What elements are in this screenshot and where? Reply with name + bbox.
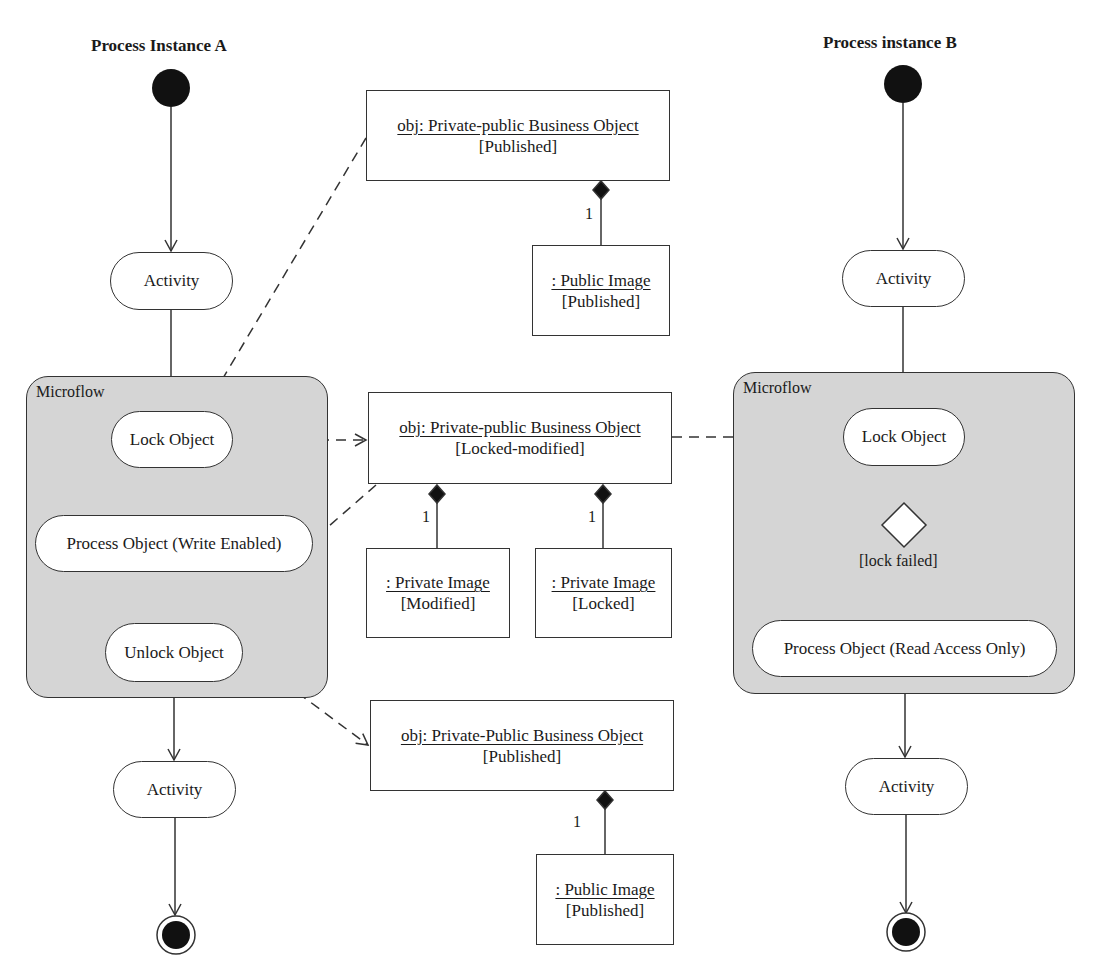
decision-node-b	[880, 501, 930, 551]
multiplicity-mid-right: 1	[588, 508, 596, 526]
process-object-read-b-label: Process Object (Read Access Only)	[784, 639, 1026, 659]
activity-a-bottom[interactable]: Activity	[113, 761, 236, 818]
activity-b-bottom-label: Activity	[879, 777, 935, 797]
object-private-image-modified[interactable]: : Private Image [Modified]	[366, 548, 510, 638]
final-node-b	[887, 913, 925, 951]
activity-b-top-label: Activity	[876, 269, 932, 289]
unlock-object-a[interactable]: Unlock Object	[105, 623, 243, 682]
lock-object-b[interactable]: Lock Object	[843, 408, 965, 466]
multiplicity-bottom: 1	[573, 813, 581, 831]
object-bottom-part-state: [Published]	[566, 900, 644, 921]
multiplicity-mid-left: 1	[422, 508, 430, 526]
object-bottom-public-image[interactable]: : Public Image [Published]	[536, 854, 674, 945]
process-object-write-a[interactable]: Process Object (Write Enabled)	[35, 515, 313, 572]
object-middle-state: [Locked-modified]	[455, 438, 584, 459]
process-object-write-a-label: Process Object (Write Enabled)	[66, 534, 281, 554]
lock-object-b-label: Lock Object	[862, 427, 947, 447]
microflow-a-label: Microflow	[36, 383, 104, 401]
object-middle-name: obj: Private-public Business Object	[399, 417, 640, 438]
object-top-part-state: [Published]	[562, 291, 640, 312]
object-top-part-name: : Public Image	[551, 270, 650, 291]
object-top-state: [Published]	[479, 136, 557, 157]
activity-b-top[interactable]: Activity	[842, 250, 965, 307]
object-mid-part0-name: : Private Image	[386, 572, 490, 593]
multiplicity-top: 1	[585, 205, 593, 223]
activity-a-top-label: Activity	[144, 271, 200, 291]
object-top-public-image[interactable]: : Public Image [Published]	[532, 245, 670, 336]
object-bottom-state: [Published]	[483, 746, 561, 767]
unlock-object-a-label: Unlock Object	[124, 643, 224, 663]
object-bottom-name: obj: Private-Public Business Object	[401, 725, 643, 746]
object-mid-part1-state: [Locked]	[572, 593, 634, 614]
object-top-business[interactable]: obj: Private-public Business Object [Pub…	[366, 90, 670, 181]
lock-object-a-label: Lock Object	[130, 430, 215, 450]
initial-node-b	[884, 65, 922, 103]
initial-node-a	[152, 69, 190, 107]
lock-object-a[interactable]: Lock Object	[111, 411, 233, 468]
object-middle-business[interactable]: obj: Private-public Business Object [Loc…	[368, 392, 672, 484]
object-mid-part0-state: [Modified]	[401, 593, 476, 614]
activity-a-top[interactable]: Activity	[110, 252, 233, 310]
microflow-b-label: Microflow	[743, 379, 811, 397]
object-top-name: obj: Private-public Business Object	[397, 115, 638, 136]
object-bottom-business[interactable]: obj: Private-Public Business Object [Pub…	[370, 700, 674, 791]
object-bottom-part-name: : Public Image	[555, 879, 654, 900]
final-node-a	[157, 916, 195, 954]
activity-a-bottom-label: Activity	[147, 780, 203, 800]
process-object-read-b[interactable]: Process Object (Read Access Only)	[752, 620, 1057, 677]
object-private-image-locked[interactable]: : Private Image [Locked]	[535, 548, 672, 638]
activity-b-bottom[interactable]: Activity	[845, 758, 968, 815]
guard-lock-failed: [lock failed]	[857, 552, 940, 570]
object-mid-part1-name: : Private Image	[552, 572, 656, 593]
